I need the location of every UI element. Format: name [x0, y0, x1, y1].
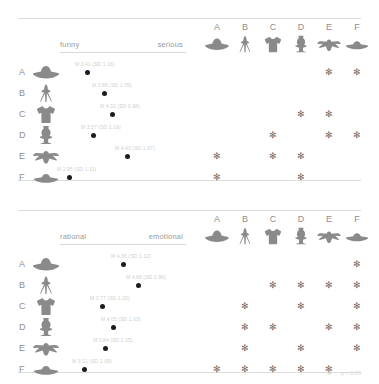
row-header-c: C — [19, 301, 30, 312]
significance-star: ✻ — [241, 344, 249, 352]
panel-divider — [18, 180, 361, 181]
panel-divider — [18, 210, 361, 211]
dot-value-label: M 3.77 (SD 1.20) — [90, 295, 130, 301]
tshirt-silhouette — [31, 295, 61, 317]
column-header-d: D — [294, 214, 308, 225]
mean-dot — [111, 325, 116, 330]
dot-value-label: M 4.68 (SD 0.96) — [126, 274, 166, 280]
column-header-e: E — [322, 22, 336, 33]
significance-star: ✻ — [213, 152, 221, 160]
hat-silhouette — [31, 253, 61, 275]
hat-silhouette — [203, 226, 231, 246]
footnote-text: p < 0.05 — [341, 370, 361, 376]
significance-star: ✻ — [325, 131, 333, 139]
row-header-b: B — [19, 88, 30, 99]
dot-value-label: M 4.05 (SD 1.03) — [101, 316, 141, 322]
column-header-c: C — [266, 22, 280, 33]
tshirt-silhouette — [259, 34, 287, 54]
mean-dot — [136, 283, 141, 288]
row-header-f: F — [19, 364, 30, 375]
significance-star: ✻ — [325, 281, 333, 289]
dot-value-label: M 4.43 (SD 1.07) — [115, 145, 155, 151]
hat-silhouette — [31, 61, 61, 83]
significance-star: ✻ — [269, 323, 277, 331]
dot-value-label: M 4.02 (SD 0.98) — [100, 103, 140, 109]
significance-star: ✻ — [325, 68, 333, 76]
bird-silhouette — [31, 337, 61, 359]
chart-panel-funny-serious: funnyseriousABCDEFAM 3.41 (SD 1.16)BM 3.… — [0, 0, 379, 192]
significance-star: ✻ — [297, 110, 305, 118]
dot-value-label: M 3.41 (SD 1.16) — [75, 61, 115, 67]
chart-panel-rational-emotional: rationalemotionalABCDEFAM 4.36 (SD 1.12)… — [0, 192, 379, 384]
scale-axis-line — [60, 244, 186, 245]
significance-star: ✻ — [241, 323, 249, 331]
significance-star: ✻ — [353, 344, 361, 352]
column-header-e: E — [322, 214, 336, 225]
row-header-f: F — [19, 172, 30, 183]
significance-star: ✻ — [297, 281, 305, 289]
significance-star: ✻ — [353, 302, 361, 310]
significance-star: ✻ — [241, 365, 249, 373]
significance-star: ✻ — [297, 365, 305, 373]
bird-silhouette — [315, 34, 343, 54]
dot-value-label: M 3.86 (SD 1.05) — [92, 82, 132, 88]
significance-star: ✻ — [353, 131, 361, 139]
significance-footnote: ✻p < 0.05 — [327, 370, 361, 376]
dress-form-silhouette — [31, 316, 61, 338]
row-header-a: A — [19, 67, 30, 78]
scale-label-left: funny — [60, 40, 79, 49]
column-header-f: F — [350, 22, 364, 33]
dress-form-silhouette — [287, 226, 315, 246]
column-header-f: F — [350, 214, 364, 225]
easel-tripod-silhouette — [231, 34, 259, 54]
flat-hat-silhouette — [31, 358, 61, 380]
panel-divider — [18, 372, 361, 373]
dot-value-label: M 3.84 (SD 1.15) — [93, 337, 133, 343]
significance-star: ✻ — [353, 281, 361, 289]
mean-dot — [125, 154, 130, 159]
column-header-a: A — [210, 22, 224, 33]
dot-value-label: M 2.95 (SD 1.11) — [57, 166, 96, 172]
column-header-a: A — [210, 214, 224, 225]
mean-dot — [121, 262, 126, 267]
significance-star: ✻ — [297, 302, 305, 310]
column-header-b: B — [238, 214, 252, 225]
easel-tripod-silhouette — [31, 82, 61, 104]
figure-root: funnyseriousABCDEFAM 3.41 (SD 1.16)BM 3.… — [0, 0, 379, 384]
significance-star: ✻ — [269, 131, 277, 139]
easel-tripod-silhouette — [231, 226, 259, 246]
significance-star: ✻ — [241, 302, 249, 310]
significance-star: ✻ — [353, 260, 361, 268]
row-header-e: E — [19, 343, 30, 354]
scale-label-left: rational — [60, 232, 86, 241]
mean-dot — [103, 346, 108, 351]
tshirt-silhouette — [259, 226, 287, 246]
column-header-c: C — [266, 214, 280, 225]
significance-star: ✻ — [269, 365, 277, 373]
mean-dot — [67, 175, 72, 180]
mean-dot — [85, 70, 90, 75]
mean-dot — [82, 367, 87, 372]
mean-dot — [110, 112, 115, 117]
significance-star: ✻ — [213, 173, 221, 181]
dot-value-label: M 3.31 (SD 1.09) — [72, 358, 112, 364]
bird-silhouette — [315, 226, 343, 246]
footnote-star-icon: ✻ — [327, 370, 332, 376]
row-header-d: D — [19, 130, 30, 141]
significance-star: ✻ — [213, 365, 221, 373]
dot-value-label: M 3.57 (SD 1.19) — [81, 124, 121, 130]
significance-star: ✻ — [353, 323, 361, 331]
significance-star: ✻ — [297, 344, 305, 352]
scale-label-right: emotional — [149, 232, 183, 241]
scale-label-right: serious — [157, 40, 183, 49]
mean-dot — [91, 133, 96, 138]
dress-form-silhouette — [287, 34, 315, 54]
tshirt-silhouette — [31, 103, 61, 125]
bird-silhouette — [31, 145, 61, 167]
dress-form-silhouette — [31, 124, 61, 146]
row-header-e: E — [19, 151, 30, 162]
easel-tripod-silhouette — [31, 274, 61, 296]
flat-hat-silhouette — [343, 226, 371, 246]
significance-star: ✻ — [297, 173, 305, 181]
scale-axis-line — [60, 52, 186, 53]
